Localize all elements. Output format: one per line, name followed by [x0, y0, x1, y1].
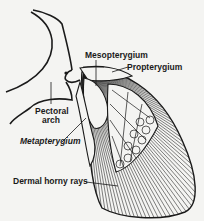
label-propterygium: Propterygium	[127, 63, 182, 72]
fin-illustration	[0, 0, 204, 221]
label-mesopterygium: Mesopterygium	[85, 51, 148, 60]
label-metapterygium: Metapterygium	[20, 137, 80, 146]
fin-skeleton-diagram: Mesopterygium Propterygium Pectoral arch…	[0, 0, 204, 221]
label-dermal-horny-rays: Dermal horny rays	[13, 177, 88, 186]
label-pectoral-arch: Pectoral arch	[35, 107, 67, 125]
